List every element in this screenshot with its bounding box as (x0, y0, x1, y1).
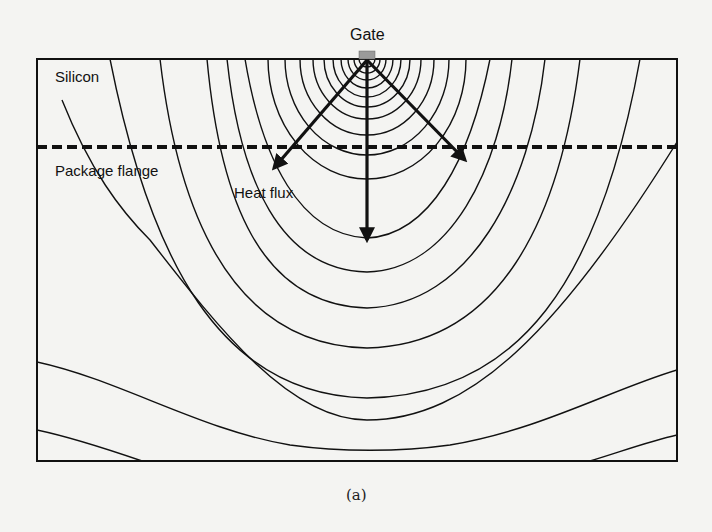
gate-label: Gate (350, 26, 385, 44)
silicon-label: Silicon (55, 68, 99, 85)
silicon-box (37, 59, 677, 461)
figure-caption: (a) (346, 486, 367, 504)
isotherm-lines (37, 59, 677, 461)
gate-pad (359, 51, 375, 59)
heat-flux-diagram (0, 0, 712, 532)
package-flange-label: Package flange (55, 162, 158, 179)
arrow-down-left (274, 60, 367, 168)
heat-flux-label: Heat flux (234, 184, 293, 201)
